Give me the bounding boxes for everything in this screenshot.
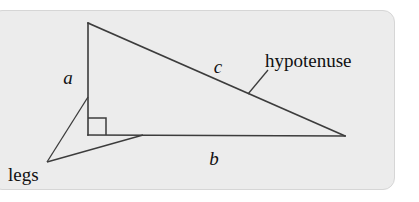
legs-word-label: legs [8, 164, 39, 185]
leg-b-label: b [209, 148, 219, 169]
hypotenuse-word-label: hypotenuse [265, 50, 352, 71]
figure-container: a b c hypotenuse legs [0, 0, 419, 202]
leg-a-label: a [63, 67, 73, 88]
hypotenuse-side-label: c [214, 56, 223, 77]
leg-b-line [88, 135, 345, 136]
hypotenuse-line [88, 23, 345, 136]
hypotenuse-leader-line [248, 70, 268, 94]
right-triangle-diagram: a b c hypotenuse legs [0, 0, 419, 202]
right-angle-marker-icon [88, 118, 106, 135]
